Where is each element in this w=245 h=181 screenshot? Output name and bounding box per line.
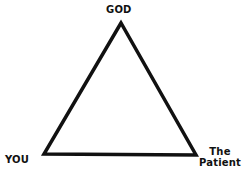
vertex-label-you: YOU [5, 154, 29, 165]
patient-label-line2: Patient [199, 157, 241, 168]
vertex-label-patient: The Patient [199, 146, 241, 168]
patient-label-line1: The [199, 146, 241, 157]
vertex-label-god: GOD [106, 4, 132, 15]
triangle-shape [44, 23, 196, 155]
